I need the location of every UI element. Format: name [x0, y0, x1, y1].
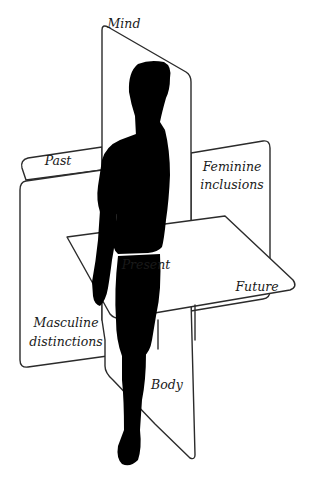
label-present: Present — [114, 255, 178, 274]
label-body: Body — [145, 375, 189, 394]
label-past: Past — [34, 151, 82, 170]
three-planes-diagram — [0, 0, 319, 487]
label-masculine-line2: distinctions — [22, 332, 110, 351]
label-masculine-line1: Masculine — [24, 313, 108, 332]
label-feminine-line2: inclusions — [196, 175, 268, 194]
label-feminine-line1: Feminine — [196, 157, 268, 176]
label-mind: Mind — [104, 14, 144, 33]
label-future: Future — [230, 277, 284, 296]
